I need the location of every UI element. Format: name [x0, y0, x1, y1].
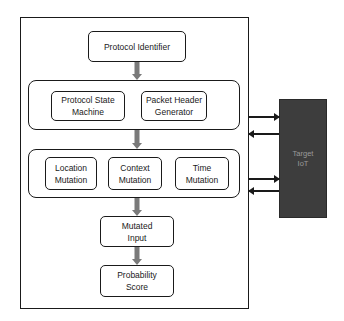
location-mutation-label-line1: Location — [55, 162, 88, 174]
target-iot-device: Target IoT — [279, 99, 327, 218]
receive-arrow-left-icon — [249, 190, 279, 192]
protocol-state-machine-node: Protocol State Machine — [51, 91, 125, 121]
mutated-input-label-line1: Mutated — [122, 220, 153, 232]
packet-header-generator-node: Packet Header Generator — [141, 91, 207, 121]
packet-header-generator-label-line1: Packet Header — [146, 94, 202, 106]
mutated-input-label-line2: Input — [122, 232, 153, 244]
protocol-state-machine-label-line1: Protocol State — [61, 94, 114, 106]
location-mutation-node: Location Mutation — [45, 157, 97, 190]
protocol-identifier-label: Protocol Identifier — [104, 41, 170, 53]
time-mutation-label-line1: Time — [186, 162, 219, 174]
time-mutation-label-line2: Mutation — [186, 174, 219, 186]
send-arrow-right-icon — [249, 116, 279, 118]
probability-score-label-line1: Probability — [117, 269, 157, 281]
packet-header-generator-label-line2: Generator — [146, 106, 202, 118]
context-mutation-node: Context Mutation — [108, 157, 162, 190]
send-arrow-right-icon — [249, 178, 279, 180]
protocol-state-machine-label-line2: Machine — [61, 106, 114, 118]
receive-arrow-left-icon — [249, 133, 279, 135]
time-mutation-node: Time Mutation — [175, 157, 229, 190]
context-mutation-label-line2: Mutation — [119, 174, 152, 186]
flow-arrow-down-icon — [132, 62, 142, 80]
context-mutation-label-line1: Context — [119, 162, 152, 174]
protocol-identifier-node: Protocol Identifier — [88, 31, 186, 62]
flow-arrow-down-icon — [132, 198, 142, 216]
target-iot-label-line2: IoT — [293, 159, 314, 169]
target-iot-label-line1: Target — [293, 149, 314, 159]
probability-score-label-line2: Score — [117, 281, 157, 293]
flow-arrow-down-icon — [132, 247, 142, 265]
probability-score-node: Probability Score — [100, 265, 174, 297]
flow-arrow-down-icon — [132, 130, 142, 149]
location-mutation-label-line2: Mutation — [55, 174, 88, 186]
mutated-input-node: Mutated Input — [100, 216, 174, 247]
